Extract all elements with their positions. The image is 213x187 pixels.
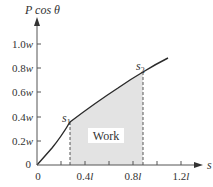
y-ticks bbox=[37, 44, 41, 141]
chart-canvas: 0.2w 0.4w 0.6w 0.8w 1.0w 0 0 0.4l 0.8l 1… bbox=[0, 0, 213, 187]
x-tick-label-1.2: 1.2l bbox=[173, 170, 190, 182]
x-axis-title: s bbox=[207, 158, 212, 172]
work-label: Work bbox=[93, 129, 119, 143]
y-origin-label: 0 bbox=[26, 158, 32, 170]
s2-label: s2 bbox=[136, 59, 145, 75]
y-tick-label-0.2: 0.2w bbox=[12, 135, 34, 147]
x-axis-arrow-icon bbox=[194, 162, 203, 168]
x-tick-label-0.4: 0.4l bbox=[77, 170, 94, 182]
y-tick-label-1.0: 1.0w bbox=[12, 38, 34, 50]
x-tick-label-0: 0 bbox=[35, 170, 41, 182]
y-axis-arrow-icon bbox=[34, 17, 40, 26]
work-shaded-area bbox=[70, 72, 143, 165]
y-tick-label-0.8: 0.8w bbox=[12, 62, 34, 74]
x-tick-label-0.8: 0.8l bbox=[125, 170, 142, 182]
s1-label: s1 bbox=[62, 111, 71, 127]
y-tick-label-0.6: 0.6w bbox=[12, 86, 34, 98]
y-axis-title: P cos θ bbox=[24, 3, 60, 17]
y-tick-label-0.4: 0.4w bbox=[12, 111, 34, 123]
